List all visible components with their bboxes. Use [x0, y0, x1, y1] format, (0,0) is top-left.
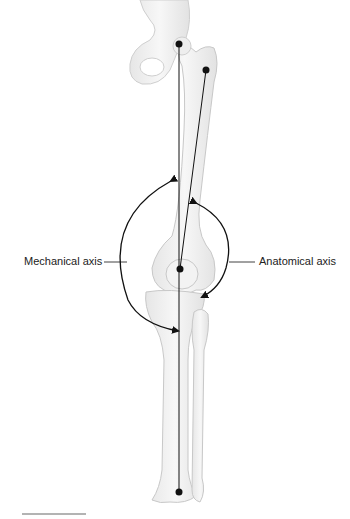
fibula-bone	[192, 309, 209, 502]
ankle-center-dot	[176, 489, 183, 496]
hip-center-dot	[176, 41, 183, 48]
mechanical-axis-label: Mechanical axis	[24, 255, 102, 267]
anatomical-axis-label: Anatomical axis	[259, 255, 336, 267]
knee-center-dot	[177, 266, 184, 273]
trochanter-dot	[203, 67, 210, 74]
